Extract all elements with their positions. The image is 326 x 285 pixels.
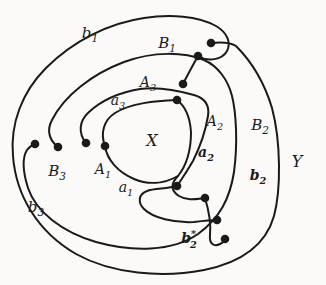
topology-figure: b1B1A3a3XA2B2a2YB3A1a1b2b3b*2 xyxy=(0,0,326,285)
curve-b1-inner-tail xyxy=(183,56,198,84)
figure-canvas: b1B1A3a3XA2B2a2YB3A1a1b2b3b*2 xyxy=(0,0,326,285)
endpoint-dot-d10 xyxy=(201,194,210,203)
label-B3: B3 xyxy=(47,162,66,182)
label-a1: a1 xyxy=(119,179,134,198)
endpoint-dot-d7 xyxy=(82,139,91,148)
endpoint-dot-d1 xyxy=(207,39,216,48)
label-A3: A3 xyxy=(138,74,156,93)
label-b1: b1 xyxy=(82,24,98,44)
label-B2: B2 xyxy=(250,116,269,136)
label-B1: B1 xyxy=(157,34,176,54)
dots-group xyxy=(31,39,230,244)
label-Y: Y xyxy=(292,152,304,171)
label-A2: A2 xyxy=(205,113,223,132)
curve-a1-arc xyxy=(140,186,217,222)
label-X: X xyxy=(144,131,158,150)
endpoint-dot-d8 xyxy=(101,142,110,151)
endpoint-dot-d6 xyxy=(54,143,63,152)
label-a2: a2 xyxy=(198,144,214,163)
labels-group: b1B1A3a3XA2B2a2YB3A1a1b2b3b*2 xyxy=(28,24,304,250)
endpoint-dot-d11 xyxy=(213,216,222,225)
curve-x-blob-bottom xyxy=(105,146,178,183)
endpoint-dot-d2 xyxy=(194,52,203,61)
label-b2star: b*2 xyxy=(181,228,197,250)
endpoint-dot-d5 xyxy=(31,140,40,149)
endpoint-dot-d12 xyxy=(221,235,230,244)
label-a3: a3 xyxy=(111,92,126,111)
endpoint-dot-d3 xyxy=(179,80,188,89)
label-A1: A1 xyxy=(93,161,111,180)
label-b2: b2 xyxy=(250,167,267,186)
endpoint-dot-d4 xyxy=(173,96,182,105)
endpoint-dot-d9 xyxy=(173,182,182,191)
label-b3: b3 xyxy=(28,198,45,218)
